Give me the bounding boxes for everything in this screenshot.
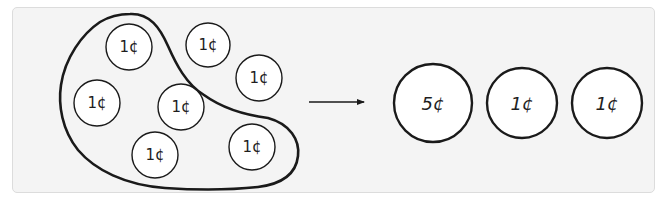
coin-1-cent: 1¢ <box>106 24 152 70</box>
right-coins: 5¢1¢1¢ <box>394 64 642 142</box>
coin-1-cent: 1¢ <box>74 80 120 126</box>
coin-label: 1¢ <box>249 69 268 87</box>
coin-label: 1¢ <box>119 38 138 56</box>
coin-1-cent: 1¢ <box>236 55 282 101</box>
coin-label: 1¢ <box>87 94 106 112</box>
left-coins: 1¢1¢1¢1¢1¢1¢1¢ <box>74 23 282 178</box>
coin-label: 1¢ <box>511 93 534 114</box>
coin-1-cent: 1¢ <box>572 68 642 138</box>
coin-1-cent: 1¢ <box>186 23 230 67</box>
coin-5-cent: 5¢ <box>394 64 472 142</box>
coin-label: 5¢ <box>422 93 445 114</box>
coin-1-cent: 1¢ <box>132 132 178 178</box>
coin-1-cent: 1¢ <box>229 124 275 170</box>
coin-label: 1¢ <box>242 138 261 156</box>
coin-label: 1¢ <box>596 93 619 114</box>
coin-label: 1¢ <box>198 36 217 54</box>
coin-label: 1¢ <box>145 146 164 164</box>
coin-label: 1¢ <box>171 98 190 116</box>
coin-1-cent: 1¢ <box>158 84 204 130</box>
coin-exchange-diagram: 1¢1¢1¢1¢1¢1¢1¢ 5¢1¢1¢ <box>0 0 663 199</box>
coin-1-cent: 1¢ <box>487 68 557 138</box>
